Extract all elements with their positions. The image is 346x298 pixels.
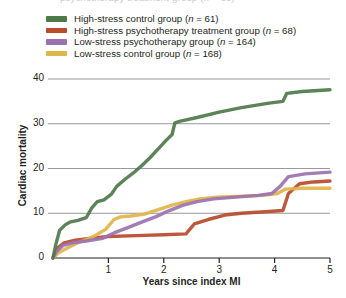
x-axis-label: Years since index MI <box>53 276 330 287</box>
chart-screenshot: psychotherapy treatment group (n = 68) H… <box>0 0 346 298</box>
series-line-0 <box>53 90 330 258</box>
series-line-1 <box>53 181 330 258</box>
x-tick-label-2: 2 <box>154 264 174 275</box>
y-tick-label-40: 40 <box>20 72 44 83</box>
y-tick-label-0: 0 <box>20 251 44 262</box>
series-line-2 <box>53 172 330 258</box>
y-tick-label-20: 20 <box>20 162 44 173</box>
x-tick-label-1: 1 <box>98 264 118 275</box>
y-tick-label-30: 30 <box>20 117 44 128</box>
plot-area: Cardiac mortality Years since index MI 0… <box>0 0 346 298</box>
x-tick-label-3: 3 <box>209 264 229 275</box>
x-tick-label-4: 4 <box>265 264 285 275</box>
x-tick-label-5: 5 <box>320 264 340 275</box>
y-tick-label-10: 10 <box>20 206 44 217</box>
plot-svg <box>0 0 346 298</box>
